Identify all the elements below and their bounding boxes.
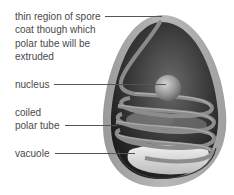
label-line: coiled <box>15 106 59 119</box>
label-line: coat though which <box>15 23 101 36</box>
label-line: nucleus <box>15 78 49 91</box>
leader-thin-region <box>105 16 162 17</box>
label-vacuole: vacuole <box>15 147 49 160</box>
leader-vacuole <box>55 153 135 154</box>
nucleus-shape <box>155 75 181 101</box>
label-line: polar tube will be <box>15 37 101 50</box>
label-line: polar tube <box>15 119 59 132</box>
leader-nucleus <box>54 84 166 85</box>
label-line: extruded <box>15 50 101 63</box>
label-thin-region: thin region of spore coat though which p… <box>15 10 101 63</box>
label-nucleus: nucleus <box>15 78 49 91</box>
label-line: vacuole <box>15 147 49 160</box>
leader-coiled-polar-tube <box>65 125 117 126</box>
label-line: thin region of spore <box>15 10 101 23</box>
label-coiled-polar-tube: coiled polar tube <box>15 106 59 133</box>
